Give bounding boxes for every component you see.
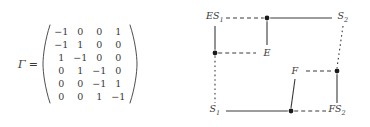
graph-node-dot [289, 109, 294, 114]
matrix-cell: 0 [58, 90, 64, 103]
matrix-cell: 0 [58, 77, 64, 90]
graph-node-label-subscript: 1 [216, 109, 220, 117]
graph-node-label-text: F [292, 65, 299, 76]
matrix-equation: Γ = −1001−11001−10001−1000−11001−1 [18, 24, 138, 104]
nodes-group [213, 16, 340, 114]
graph-edge-F-n_bot_mid [291, 79, 295, 108]
matrix-bracket-group: −1001−11001−10001−1000−11001−1 [42, 24, 138, 104]
matrix-figure: Γ = −1001−11001−10001−1000−11001−1 [0, 0, 185, 127]
matrix-cell: 0 [96, 51, 102, 64]
right-paren-icon [129, 24, 138, 104]
matrix-cell: −1 [92, 64, 106, 77]
graph-edge-S2-n_right_mid [337, 26, 343, 68]
graph-node-dot [335, 69, 340, 74]
matrix-grid: −1001−11001−10001−1000−11001−1 [51, 24, 129, 104]
matrix-cell: 1 [115, 25, 121, 38]
matrix-cell: 0 [77, 25, 83, 38]
gamma-symbol: Γ [18, 58, 29, 71]
left-paren-icon [42, 24, 51, 104]
graph-node-label-FS2: FS2 [329, 104, 346, 118]
matrix-cell: 1 [58, 51, 64, 64]
graph-diagram: ES1S2EFS1FS2 [185, 0, 370, 127]
equals-sign: = [29, 58, 42, 71]
matrix-cell: −1 [111, 90, 125, 103]
matrix-cell: 0 [115, 51, 121, 64]
matrix-cell: −1 [73, 51, 87, 64]
graph-node-label-subscript: 2 [342, 109, 346, 117]
graph-node-label-E: E [264, 48, 271, 58]
matrix-cell: 0 [115, 38, 121, 51]
figure-page: Γ = −1001−11001−10001−1000−11001−1 [0, 0, 370, 127]
matrix-cell: −1 [54, 38, 68, 51]
matrix-cell: 0 [115, 64, 121, 77]
graph-node-label-subscript: 1 [219, 16, 223, 24]
graph-node-label-text: FS [329, 103, 342, 114]
graph-node-label-F: F [292, 66, 299, 76]
graph-node-dot [213, 51, 218, 56]
matrix-cell: 1 [115, 77, 121, 90]
matrix-cell: 1 [77, 64, 83, 77]
matrix-cell: 0 [58, 64, 64, 77]
matrix-cell: −1 [92, 77, 106, 90]
graph-node-label-text: ES [206, 10, 219, 21]
matrix-cell: 1 [96, 90, 102, 103]
graph-node-label-subscript: 2 [344, 16, 348, 24]
edges-group [215, 18, 343, 111]
matrix-cell: 0 [96, 38, 102, 51]
graph-node-label-S1: S1 [210, 104, 221, 118]
graph-node-dot [265, 16, 270, 21]
graph-node-label-text: E [264, 47, 271, 58]
matrix-cell: 0 [96, 25, 102, 38]
graph-node-label-ES1: ES1 [206, 11, 224, 25]
matrix-cell: 0 [77, 90, 83, 103]
matrix-cell: 0 [77, 77, 83, 90]
matrix-cell: −1 [54, 25, 68, 38]
matrix-cell: 1 [77, 38, 83, 51]
graph-node-label-S2: S2 [338, 11, 349, 25]
